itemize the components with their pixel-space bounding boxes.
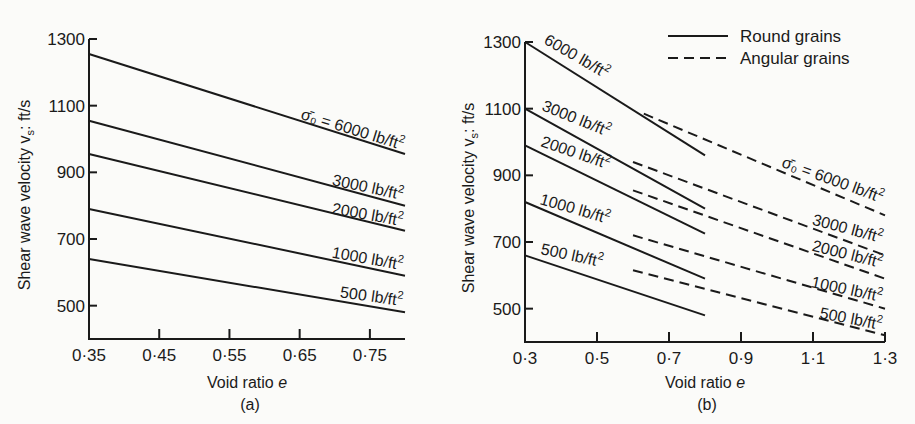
figure: 500700900110013000·350·450·550·650·75Voi… — [0, 0, 915, 424]
chart-panel-a: 500700900110013000·350·450·550·650·75Voi… — [16, 30, 407, 391]
y-tick-label: 1100 — [48, 97, 85, 116]
x-tick-label: 0·9 — [729, 349, 754, 368]
chart-panel-b: 500700900110013000·30·50·70·91·11·3Void … — [460, 27, 897, 391]
series-label: 6000 lb/ft2 — [542, 28, 614, 81]
x-tick-label: 0·7 — [657, 349, 682, 368]
y-tick-label: 1300 — [47, 30, 85, 49]
x-tick-label: 0·45 — [142, 346, 176, 365]
solid-series-line — [525, 202, 705, 279]
x-tick-label: 0·5 — [585, 349, 610, 368]
y-tick-label: 1300 — [483, 33, 521, 52]
y-tick-label: 900 — [493, 166, 521, 185]
legend: Round grainsAngular grains — [668, 27, 850, 68]
series-label: 500 lb/ft2 — [819, 301, 885, 333]
x-tick-label: 0·55 — [212, 346, 246, 365]
dashed-series-line — [644, 114, 885, 216]
x-tick-label: 0·3 — [513, 349, 538, 368]
x-tick-label: 0·65 — [283, 346, 317, 365]
x-tick-label: 0·75 — [353, 346, 387, 365]
series-label: σ̄₀ = 6000 lb/ft2 — [299, 103, 407, 153]
panel-label-a: (a) — [240, 396, 260, 413]
series-label: 1000 lb/ft2 — [810, 270, 885, 305]
x-tick-label: 1·3 — [873, 349, 898, 368]
series-label: 3000 lb/ft2 — [540, 94, 614, 139]
series-label: 1000 lb/ft2 — [538, 188, 613, 227]
x-axis-label: Void ratio e — [207, 374, 287, 391]
panel-label-b: (b) — [697, 396, 717, 413]
y-tick-label: 700 — [57, 230, 85, 249]
series-label: 2000 lb/ft2 — [331, 197, 405, 229]
y-tick-label: 900 — [57, 163, 85, 182]
y-tick-label: 700 — [493, 233, 521, 252]
x-tick-label: 1·1 — [801, 349, 826, 368]
legend-label: Round grains — [740, 27, 841, 46]
y-tick-label: 1100 — [484, 100, 521, 119]
x-tick-label: 0·35 — [72, 346, 106, 365]
y-tick-label: 500 — [57, 297, 85, 316]
legend-label: Angular grains — [740, 49, 850, 68]
series-label: 3000 lb/ft2 — [331, 168, 406, 203]
axes — [525, 42, 885, 342]
y-axis-label: Shear wave velocity vs: ft/s — [16, 100, 36, 290]
series-label: 500 lb/ft2 — [539, 237, 605, 270]
y-tick-label: 500 — [493, 300, 521, 319]
x-axis-label: Void ratio e — [665, 374, 745, 391]
y-axis-label: Shear wave velocity vs: ft/s — [460, 103, 480, 293]
solid-series-line — [525, 255, 705, 315]
series-label: 500 lb/ft2 — [339, 280, 404, 309]
